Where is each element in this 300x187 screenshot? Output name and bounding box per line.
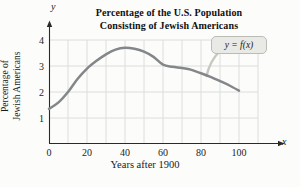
x-tick-label: 60 — [158, 147, 168, 158]
x-tick-label: 100 — [232, 147, 247, 158]
y-tick-label: 1 — [39, 113, 44, 124]
y-tick-label: 2 — [39, 87, 44, 98]
chart-title-line1: Percentage of the U.S. Population — [55, 7, 283, 20]
curve-label-callout: y = f(x) — [211, 36, 267, 54]
jewish-population-chart-figure: 0204060801001234 Percentage of the U.S. … — [0, 0, 300, 187]
x-tick-label: 0 — [47, 147, 52, 158]
y-axis-arrow — [47, 21, 52, 28]
y-axis-title-line2: Jewish Americans — [11, 26, 23, 147]
chart-title: Percentage of the U.S. Population Consis… — [55, 7, 283, 32]
y-axis-title: Percentage of Jewish Americans — [0, 26, 24, 147]
y-tick-label: 4 — [39, 35, 44, 46]
callout-tail — [207, 52, 220, 76]
y-axis-title-line1: Percentage of — [0, 26, 11, 147]
x-axis-letter: x — [282, 136, 286, 147]
chart-title-line2: Consisting of Jewish Americans — [55, 20, 283, 33]
curve-label-text: y = f(x) — [225, 40, 254, 50]
y-tick-label: 3 — [39, 61, 44, 72]
x-axis-title: Years after 1900 — [65, 159, 225, 170]
x-tick-label: 40 — [120, 147, 130, 158]
x-tick-label: 80 — [196, 147, 206, 158]
x-tick-label: 20 — [82, 147, 92, 158]
y-axis-letter: y — [51, 1, 55, 12]
